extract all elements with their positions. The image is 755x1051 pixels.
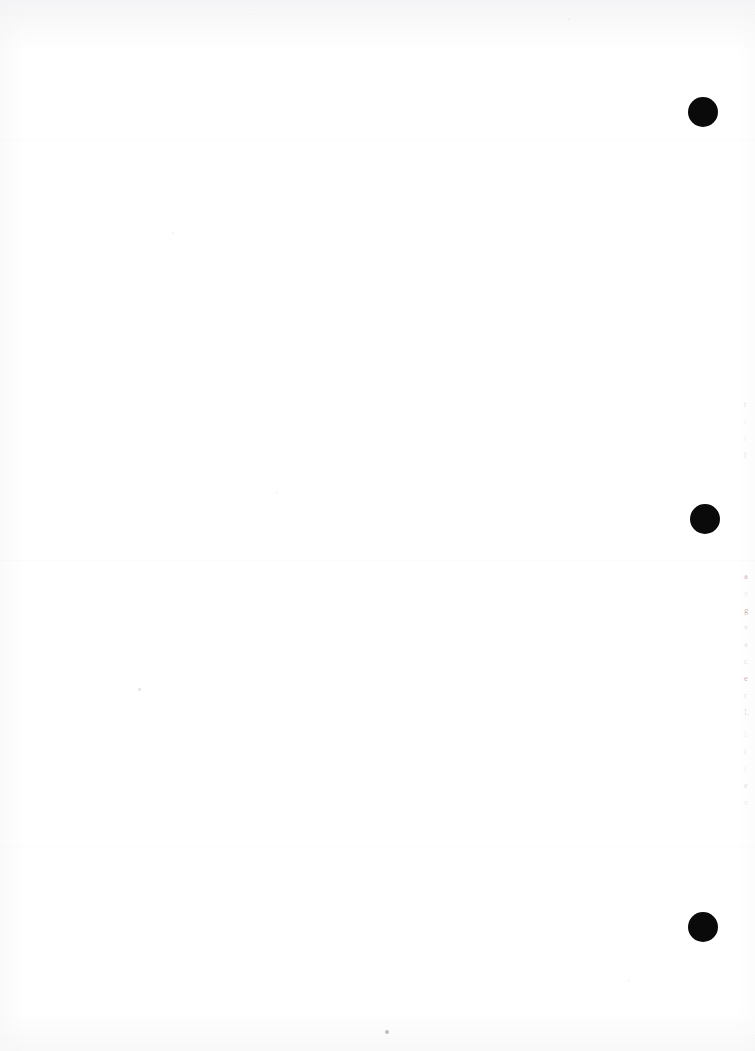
scanned-page: tirl angvacerL liten: [0, 0, 755, 1051]
edge-text-main-line-4: a: [744, 636, 755, 653]
mid-left-speck: [138, 688, 141, 691]
edge-text-lower-line-2: t: [744, 760, 755, 777]
edge-text-main-line-7: r: [744, 687, 755, 704]
edge-text-main-line-3: v: [744, 619, 755, 636]
registration-dot-middle: [690, 504, 720, 534]
streak-bottom: [0, 1038, 755, 1039]
edge-text-upper-line-1: i: [744, 413, 755, 430]
upper-right-speck: [568, 18, 570, 20]
edge-text-upper-line-0: t: [744, 396, 755, 413]
edge-text-upper: tirl: [744, 396, 755, 464]
edge-text-upper-line-2: r: [744, 430, 755, 447]
center-bottom-speck: [385, 1030, 389, 1034]
edge-text-lower: liten: [744, 726, 755, 811]
edge-text-main-line-6: e: [744, 670, 755, 687]
lower-center-speck: [628, 980, 630, 982]
edge-text-main: angvacerL: [744, 568, 755, 721]
edge-text-main-line-1: n: [744, 585, 755, 602]
edge-text-upper-line-3: l: [744, 447, 755, 464]
edge-text-lower-line-4: n: [744, 794, 755, 811]
streak-mid: [0, 560, 755, 561]
paper-texture-overlay: [0, 0, 755, 1051]
registration-dot-top: [688, 97, 718, 127]
streak-lower: [0, 846, 755, 847]
edge-text-main-line-2: g: [744, 602, 755, 619]
streak-upper: [0, 140, 755, 141]
edge-text-lower-line-1: i: [744, 743, 755, 760]
edge-text-main-line-8: L: [744, 704, 755, 721]
edge-text-main-line-0: a: [744, 568, 755, 585]
registration-dot-bottom: [688, 912, 718, 942]
streak-top: [0, 14, 755, 15]
mid-center-speck: [276, 492, 278, 494]
edge-text-lower-line-3: e: [744, 777, 755, 794]
upper-left-speck: [172, 232, 174, 234]
edge-text-lower-line-0: l: [744, 726, 755, 743]
edge-text-main-line-5: c: [744, 653, 755, 670]
